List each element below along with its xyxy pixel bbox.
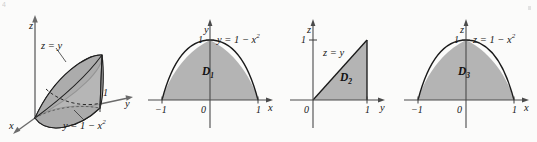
tick-label-z-1: 1 <box>454 35 459 45</box>
label-z-equals-y: z = y <box>41 41 62 52</box>
region-label-d3: D3 <box>458 66 470 80</box>
tick-label-x-1: 1 <box>256 105 261 115</box>
axis-label-y: y <box>204 25 209 36</box>
figure-container: 4 <box>0 0 537 142</box>
panel-region-d3: z = 1 − x2 D3 1 −1 0 1 z x <box>400 0 537 142</box>
tick-label-origin: 0 <box>304 105 309 115</box>
tick-label-x-1: 1 <box>512 105 517 115</box>
panel-region-d1: y = 1 − x2 D1 1 −1 0 1 y x <box>140 0 280 142</box>
region-label-d2: D2 <box>340 72 352 86</box>
tick-label-x-neg1: −1 <box>155 105 167 115</box>
tick-label-y-1: 1 <box>198 35 203 45</box>
region-label-d1: D1 <box>202 66 214 80</box>
axis-x-arrow <box>13 127 20 134</box>
axis-label-x: x <box>524 103 529 114</box>
axis-x <box>17 118 35 131</box>
tick-label-z-1: 1 <box>301 35 306 45</box>
label-curve-d2: z = y <box>323 48 344 59</box>
label-y-equals-1-minus-x2: y = 1 − x2 <box>63 119 106 131</box>
axis-label-x: x <box>268 103 273 114</box>
axis-label-x: x <box>9 121 14 132</box>
axis-label-y: y <box>380 103 385 114</box>
tick-label-origin: 0 <box>457 105 462 115</box>
tick-label-origin: 0 <box>201 105 206 115</box>
panel-region-d2: z = y D2 1 0 1 z y <box>280 0 400 142</box>
axis-label-y: y <box>125 99 130 110</box>
axis-label-z: z <box>29 21 33 32</box>
tick-label-y-1: 1 <box>103 88 108 98</box>
label-curve-d1: y = 1 − x2 <box>217 33 260 45</box>
tick-label-x-neg1: −1 <box>411 105 423 115</box>
axis-label-z: z <box>460 25 464 36</box>
axis-z-arrow <box>464 19 469 26</box>
tick-label-y-1: 1 <box>365 105 370 115</box>
panel-solid-figure: z = y y = 1 − x2 1 z y x <box>0 0 140 142</box>
axis-z-arrow <box>311 19 316 26</box>
axis-label-z: z <box>307 25 311 36</box>
label-curve-d3: z = 1 − x2 <box>473 33 515 45</box>
